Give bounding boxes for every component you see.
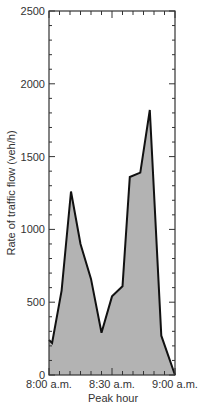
- y-tick-label: 500: [27, 296, 45, 308]
- x-tick-label: 8:00 a.m.: [26, 378, 72, 390]
- y-tick-labels: 05001000150020002500: [21, 5, 45, 381]
- x-tick-label: 9:00 a.m.: [152, 378, 198, 390]
- y-axis-label: Rate of traffic flow (veh/h): [5, 130, 17, 255]
- x-tick-label: 8:30 a.m.: [89, 378, 135, 390]
- y-tick-label: 2000: [21, 78, 45, 90]
- traffic-flow-area: [49, 110, 175, 375]
- y-tick-label: 2500: [21, 5, 45, 17]
- chart-canvas: 05001000150020002500 8:00 a.m.8:30 a.m.9…: [0, 0, 201, 411]
- x-axis-label: Peak hour: [88, 392, 138, 404]
- y-tick-label: 1000: [21, 223, 45, 235]
- x-tick-labels: 8:00 a.m.8:30 a.m.9:00 a.m.: [26, 378, 198, 390]
- y-tick-label: 1500: [21, 151, 45, 163]
